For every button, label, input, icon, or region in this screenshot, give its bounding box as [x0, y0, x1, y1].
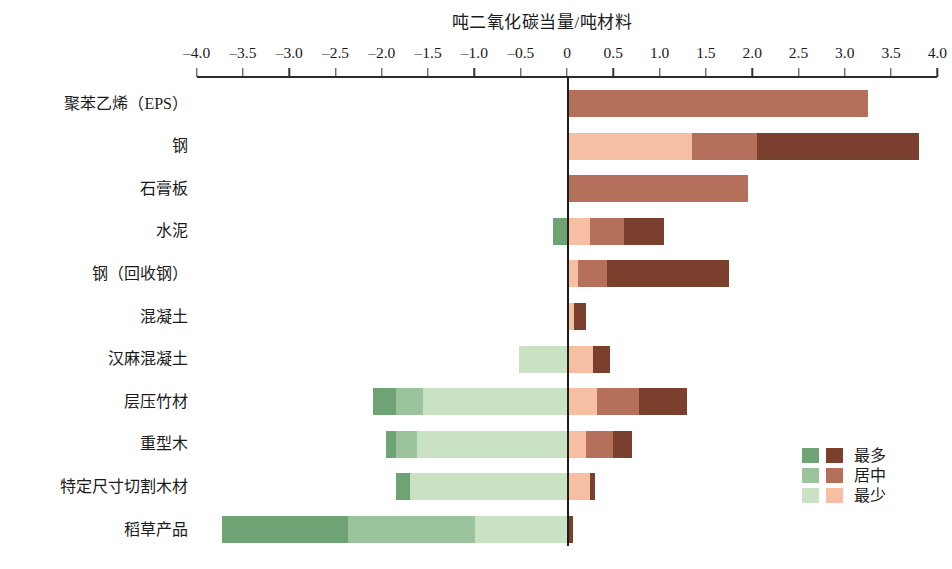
legend-swatch-green	[802, 468, 819, 483]
x-axis-ticks: –4.0–3.5–3.0–2.5–2.0–1.5–1.0–0.500.51.01…	[197, 44, 937, 78]
y-category-label: 混凝土	[0, 309, 188, 325]
y-category-label: 钢（回收钢）	[0, 266, 188, 282]
x-tick-label: –3.0	[276, 44, 303, 62]
bar-segment	[578, 260, 607, 287]
bar-segment	[586, 431, 614, 458]
legend-swatch-green	[802, 448, 819, 463]
legend-label: 最少	[854, 488, 886, 504]
bar-segment	[567, 133, 692, 160]
bar-segment	[567, 175, 748, 202]
y-category-label: 聚苯乙烯（EPS）	[0, 96, 188, 112]
x-tick-label: –1.0	[461, 44, 488, 62]
legend-row: 最多	[802, 446, 952, 465]
y-category-label: 石膏板	[0, 181, 188, 197]
x-tick-label: 2.0	[743, 44, 762, 62]
x-tick-label: –0.5	[507, 44, 534, 62]
carbon-bar-chart: 吨二氧化碳当量/吨材料 –4.0–3.5–3.0–2.5–2.0–1.5–1.0…	[0, 0, 952, 569]
bar-segment	[386, 431, 395, 458]
bar-segment	[567, 388, 597, 415]
x-tick-label: –2.0	[368, 44, 395, 62]
bar-segment	[519, 346, 567, 373]
bar-segment	[396, 431, 417, 458]
legend-swatch-green	[802, 488, 819, 503]
bar-segment	[567, 473, 590, 500]
x-tick-label: –1.5	[415, 44, 442, 62]
bar-segment	[567, 346, 593, 373]
y-category-label: 钢	[0, 138, 188, 154]
bar-segment	[396, 473, 410, 500]
x-tick-label: 0.5	[604, 44, 623, 62]
x-tick-label: –2.5	[322, 44, 349, 62]
bar-segment	[553, 218, 567, 245]
legend-swatch-brown	[826, 468, 843, 483]
bar-segment	[607, 260, 729, 287]
legend-label: 最多	[854, 448, 886, 464]
zero-baseline	[567, 78, 569, 546]
bar-segment	[410, 473, 567, 500]
chart-axis-title: 吨二氧化碳当量/吨材料	[0, 8, 952, 33]
y-axis-category-labels: 聚苯乙烯（EPS）钢石膏板水泥钢（回收钢）混凝土汉麻混凝土层压竹材重型木特定尺寸…	[0, 78, 188, 546]
bar-segment	[597, 388, 640, 415]
axis-title-text: 吨二氧化碳当量/吨材料	[452, 8, 632, 33]
bar-segment	[567, 90, 868, 117]
x-tick-label: –4.0	[183, 44, 210, 62]
bar-segment	[567, 218, 590, 245]
y-category-label: 汉麻混凝土	[0, 351, 188, 367]
x-tick-label: 3.5	[881, 44, 900, 62]
x-tick-label: 2.5	[789, 44, 808, 62]
legend-swatch-brown	[826, 448, 843, 463]
bar-segment	[475, 516, 567, 543]
bar-segment	[590, 218, 624, 245]
bar-segment	[222, 516, 349, 543]
bar-segment	[624, 218, 664, 245]
bar-segment	[639, 388, 687, 415]
y-category-label: 水泥	[0, 223, 188, 239]
bar-segment	[567, 431, 586, 458]
legend-row: 居中	[802, 466, 952, 485]
y-category-label: 稻草产品	[0, 522, 188, 538]
x-tick-label: 1.0	[650, 44, 669, 62]
bar-segment	[590, 473, 595, 500]
y-category-label: 特定尺寸切割木材	[0, 479, 188, 495]
chart-legend: 最多居中最少	[802, 446, 952, 506]
x-tick-label: 4.0	[928, 44, 947, 62]
bar-segment	[574, 303, 585, 330]
bar-segment	[692, 133, 757, 160]
bar-segment	[593, 346, 610, 373]
bar-segment	[613, 431, 632, 458]
y-category-label: 层压竹材	[0, 394, 188, 410]
legend-swatch-brown	[826, 488, 843, 503]
legend-label: 居中	[854, 468, 886, 484]
bar-segment	[423, 388, 567, 415]
bar-segment	[757, 133, 919, 160]
x-tick-label: 1.5	[696, 44, 715, 62]
bar-segment	[348, 516, 475, 543]
bar-segment	[373, 388, 396, 415]
y-category-label: 重型木	[0, 436, 188, 452]
bar-segment	[396, 388, 424, 415]
x-tick-label: –3.5	[229, 44, 256, 62]
x-tick-label: 3.0	[835, 44, 854, 62]
x-tick-label: 0	[563, 44, 571, 62]
legend-row: 最少	[802, 486, 952, 505]
bar-segment	[417, 431, 567, 458]
